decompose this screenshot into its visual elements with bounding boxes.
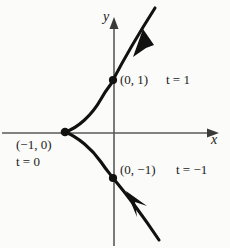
point-label-t1: (0, 1) bbox=[120, 73, 148, 86]
curve-upper-branch bbox=[65, 8, 155, 132]
point-dot-tm1 bbox=[109, 174, 117, 182]
point-dot-t0 bbox=[61, 128, 70, 137]
param-label-tm1: t = −1 bbox=[176, 163, 207, 176]
param-label-t1: t = 1 bbox=[166, 73, 190, 86]
param-label-t0: t = 0 bbox=[16, 155, 40, 168]
x-axis-label: x bbox=[211, 133, 217, 147]
y-axis-label: y bbox=[103, 10, 109, 24]
parametric-curve-figure: y x (0, 1) t = 1 (−1, 0) t = 0 (0, −1) t… bbox=[0, 0, 230, 248]
direction-arrow-upper-icon bbox=[133, 29, 154, 57]
point-label-t0: (−1, 0) bbox=[16, 138, 52, 151]
point-label-tm1: (0, −1) bbox=[120, 163, 156, 176]
curve-lower-branch bbox=[65, 132, 159, 240]
direction-arrow-lower-icon bbox=[126, 191, 147, 217]
y-axis bbox=[110, 17, 119, 246]
point-dot-t1 bbox=[109, 76, 117, 84]
curve-canvas bbox=[0, 0, 230, 248]
